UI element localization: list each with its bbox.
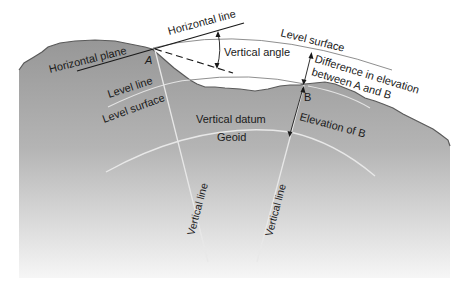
level-surface-arc-b [190, 77, 305, 84]
label-geoid: Geoid [217, 131, 246, 143]
vertical-angle-arrowhead-top [216, 31, 221, 37]
label-vertical-angle: Vertical angle [224, 46, 290, 58]
vertical-angle-arc [217, 33, 220, 67]
label-point-b: B [304, 91, 311, 103]
elevation-diagram: Horizontal line Horizontal plane A Verti… [0, 0, 465, 292]
difference-elevation-arrow [304, 55, 311, 83]
difference-arrowhead-top [309, 52, 314, 59]
label-point-a: A [144, 54, 152, 66]
label-vertical-datum: Vertical datum [196, 113, 266, 125]
label-horizontal-line: Horizontal line [166, 7, 236, 37]
